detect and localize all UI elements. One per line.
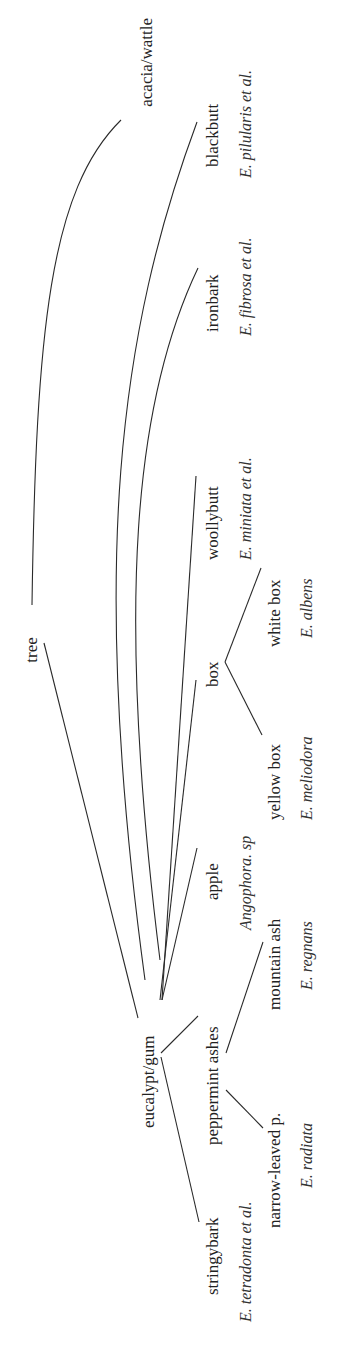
edge-eucalypt-ashes: [161, 1016, 198, 1053]
node-box: box: [203, 661, 222, 687]
node-tree: tree: [22, 637, 41, 662]
node-woollybutt: woollybutt: [203, 486, 222, 560]
edge-box-yellowbox: [225, 662, 262, 735]
edge-eucalypt-blackbutt: [116, 122, 197, 980]
node-narrowleaved: narrow-leaved p.: [265, 1113, 284, 1228]
node-ironbark: ironbark: [203, 274, 222, 332]
node-yellowbox: yellow box: [265, 743, 284, 820]
node-eucalypt: eucalypt/gum: [139, 1035, 158, 1128]
sci-blackbutt: E. pilularis et al.: [237, 70, 255, 179]
sci-stringybark: E. tetradonta et al.: [237, 1202, 254, 1323]
node-whitebox: white box: [265, 579, 284, 647]
node-mountainash: mountain ash: [265, 918, 284, 1010]
sci-yellowbox: E. meliodora: [298, 736, 315, 821]
sci-whitebox: E. albens: [298, 578, 315, 639]
edge-eucalypt-woollybutt: [162, 476, 196, 1000]
node-ashes: peppermint ashes: [203, 1027, 222, 1146]
node-blackbutt: blackbutt: [203, 103, 222, 167]
labels: tree acacia/wattle eucalypt/gum blackbut…: [22, 18, 316, 1323]
node-apple: apple: [203, 863, 222, 900]
edge-tree-acacia: [32, 120, 121, 605]
edge-tree-eucalypt: [44, 643, 138, 1018]
edge-ashes-mountainash: [226, 942, 263, 1053]
node-stringybark: stringybark: [203, 1217, 222, 1295]
edge-eucalypt-ironbark: [136, 268, 198, 960]
sci-ironbark: E. fibrosa et al.: [237, 237, 255, 337]
sci-narrowleaved: E. radiata: [298, 1123, 315, 1189]
node-acacia: acacia/wattle: [137, 18, 156, 107]
sci-woollybutt: E. miniata et al.: [237, 457, 254, 561]
taxonomy-diagram: tree acacia/wattle eucalypt/gum blackbut…: [0, 0, 355, 1361]
sci-mountainash: E. regnans: [298, 921, 316, 991]
edge-eucalypt-box: [160, 680, 196, 1000]
edge-eucalypt-stringybark: [161, 1057, 199, 1222]
edge-box-whitebox: [225, 568, 261, 662]
edge-ashes-narrowleaved: [226, 1090, 263, 1128]
sci-apple: Angophora. sp: [237, 836, 255, 931]
